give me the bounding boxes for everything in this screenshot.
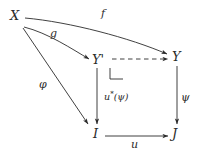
edge-phi-arrow (23, 28, 88, 124)
edge-f-arrow (25, 18, 167, 54)
edge-label-g: g (50, 28, 57, 39)
commutative-diagram: X Y' Y I J f g φ u*(ψ) ψ u (0, 0, 200, 155)
pullback-square-marker (110, 68, 123, 79)
edge-label-f: f (101, 8, 105, 19)
node-label-J: J (172, 127, 177, 140)
edge-label-u: u (131, 139, 138, 150)
node-label-I: I (93, 127, 98, 140)
u-star-argument: (ψ) (114, 91, 129, 102)
diagram-canvas (0, 0, 200, 155)
edge-label-phi: φ (39, 79, 47, 90)
node-label-X: X (10, 9, 19, 22)
node-label-Y-prime: Y' (92, 53, 104, 66)
edge-label-psi: ψ (181, 92, 190, 103)
edge-label-u-star-psi: u*(ψ) (104, 91, 129, 102)
node-label-Y: Y (172, 50, 181, 63)
